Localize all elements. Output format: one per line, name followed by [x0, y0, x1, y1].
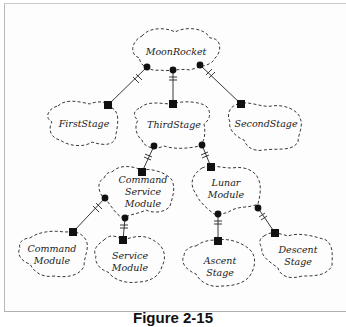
whole-dot-icon [197, 62, 204, 69]
node-label: Module [111, 262, 149, 273]
node-label: Module [207, 189, 245, 200]
node-label: Stage [284, 256, 312, 267]
node-second-stage: SecondStage [228, 103, 301, 151]
edge-thirdstage-lm [199, 142, 215, 171]
containment-diagram: MoonRocket FirstStage ThirdStage SecondS… [0, 0, 346, 310]
edge-lm-descentstage [255, 205, 279, 237]
edge-moonrocket-secondstage [197, 62, 245, 108]
part-square-icon [207, 163, 215, 171]
node-label: Module [33, 255, 71, 266]
node-label: Module [124, 198, 162, 209]
edge-moonrocket-firststage [104, 64, 150, 109]
node-label: Stage [206, 267, 234, 278]
whole-dot-icon [102, 195, 109, 202]
whole-dot-icon [144, 64, 151, 71]
whole-dot-icon [151, 143, 158, 150]
whole-dot-icon [170, 67, 177, 74]
node-label: Descent [278, 244, 318, 255]
edge-csm-commandmodule [69, 195, 108, 236]
node-label: Ascent [203, 255, 237, 266]
edge-thirdstage-csm [138, 143, 157, 176]
node-command-service-module: Command Service Module [99, 167, 174, 219]
part-square-icon [169, 100, 177, 108]
edge-csm-servicemodule [119, 215, 128, 244]
node-label: Lunar [211, 177, 242, 188]
node-label: Command [28, 243, 77, 254]
whole-dot-icon [122, 215, 129, 222]
node-lunar-module: Lunar Module [192, 166, 260, 214]
whole-dot-icon [215, 211, 222, 218]
whole-dot-icon [199, 142, 206, 149]
edge-lm-ascentstage [214, 211, 222, 245]
node-descent-stage: Descent Stage [260, 233, 332, 278]
node-label: Service [112, 250, 148, 261]
node-label: ThirdStage [147, 119, 201, 130]
part-square-icon [119, 236, 127, 244]
node-ascent-stage: Ascent Stage [183, 239, 255, 286]
node-label: MoonRocket [145, 46, 207, 57]
part-square-icon [237, 100, 245, 108]
part-square-icon [69, 228, 77, 236]
figure-caption: Figure 2-15 [0, 309, 346, 326]
part-square-icon [214, 237, 222, 245]
node-service-module: Service Module [95, 236, 165, 283]
node-third-stage: ThirdStage [134, 102, 209, 148]
part-square-icon [138, 168, 146, 176]
whole-dot-icon [255, 205, 262, 212]
node-label: Service [125, 186, 161, 197]
part-square-icon [271, 229, 279, 237]
edge-moonrocket-thirdstage [169, 67, 177, 108]
part-square-icon [104, 101, 112, 109]
node-label: FirstStage [58, 118, 110, 129]
node-command-module: Command Module [19, 231, 88, 276]
node-label: SecondStage [234, 118, 297, 129]
